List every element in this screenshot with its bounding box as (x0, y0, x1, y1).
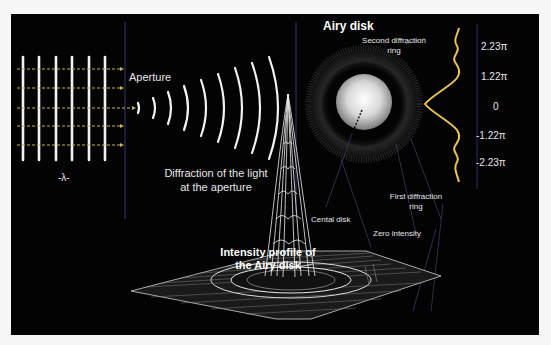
tick-label: 2.23π (481, 41, 507, 52)
diagram-panel: Airy disk Aperture -λ- Diffraction of th… (11, 14, 539, 335)
intensity-profile-title: Intensity profile of the Airy disk (203, 246, 333, 272)
zero-intensity-label: Zero intensity (373, 228, 421, 239)
tick-label: -2.23π (476, 157, 506, 168)
propagation-arrows (17, 69, 132, 145)
airy-disk-image (302, 42, 426, 166)
second-ring-label: Second diffraction ring (344, 36, 444, 56)
aperture-label: Aperture (129, 72, 171, 83)
wavelength-label: -λ- (58, 172, 70, 183)
diffraction-caption: Diffraction of the light at the aperture (151, 166, 281, 194)
central-disk-label: Cental disk (311, 214, 351, 225)
tick-label: -1.22π (476, 130, 506, 141)
first-ring-label: First diffraction ring (366, 192, 466, 212)
tick-label: 1.22π (481, 71, 507, 82)
tick-label: 0 (493, 101, 499, 112)
airy-disk-title: Airy disk (323, 21, 374, 32)
